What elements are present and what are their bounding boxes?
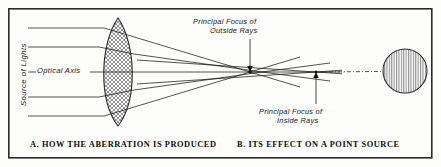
focus-inside-label-line2: Inside Rays [277,116,318,125]
caption-b: B. ITS EFFECT ON A POINT SOURCE [237,140,400,149]
source-of-lights-label: Source of Lights [19,43,28,106]
blur-disc [383,49,427,93]
spherical-aberration-figure: Source of Lights Optical Axis Principal … [0,0,441,167]
focus-outside-label-line1: Principal Focus of [193,17,257,26]
projection-dashdot-line [320,71,385,72]
leader-outside [247,39,253,72]
refracted-rays [98,28,342,116]
focus-outside-label-line2: Outside Rays [210,26,257,35]
focus-inside-label-line1: Principal Focus of [259,107,323,116]
optical-axis-label: Optical Axis [37,66,80,75]
diagram-canvas: Source of Lights Optical Axis Principal … [0,0,441,167]
leader-inside [313,72,319,104]
caption-a: A. HOW THE ABERRATION IS PRODUCED [30,140,217,149]
